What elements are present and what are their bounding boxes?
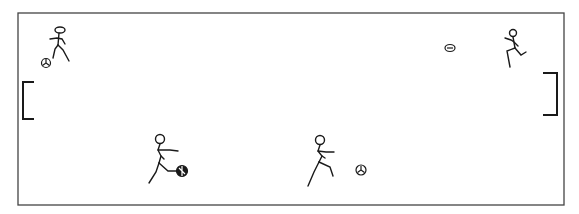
field-border: [18, 13, 564, 205]
ball-top-left: [42, 59, 51, 68]
left-goal: [23, 82, 34, 119]
ball-bottom-center: [356, 165, 366, 175]
soccer-field-scene: [0, 0, 579, 214]
ball-top-right: [445, 45, 455, 52]
player-top-right: [505, 30, 526, 68]
ball-bottom-left: [177, 166, 188, 177]
player-top-left: [50, 27, 69, 61]
player-bottom-left: [149, 135, 178, 184]
player-bottom-center: [308, 136, 334, 187]
right-goal: [543, 73, 557, 115]
